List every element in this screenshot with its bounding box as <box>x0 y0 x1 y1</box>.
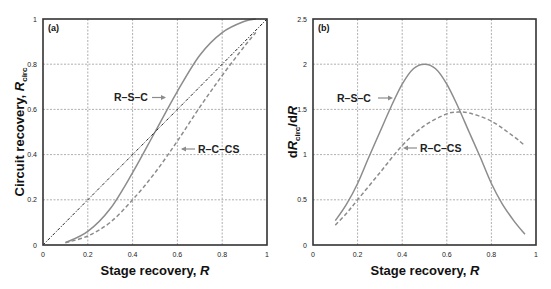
panel-b-grid <box>313 19 536 245</box>
panel-a-rsc-label: R–S–C <box>114 91 148 103</box>
panel-b-x-axis-label: Stage recovery, R <box>371 263 480 278</box>
series-diagonal-line <box>43 19 267 245</box>
y-tick-label: 0.2 <box>27 196 37 203</box>
panel-b-rsc-label: R–S–C <box>337 92 371 104</box>
x-tick-label: 0 <box>41 251 45 258</box>
panel-b-x-ticks: 00.20.40.60.81 <box>311 251 538 258</box>
y-tick-label: 1 <box>303 151 307 158</box>
panel-a-rccs-label: R–C–CS <box>198 143 239 155</box>
y-tick-label: 0.4 <box>27 151 37 158</box>
y-tick-label: 1 <box>33 16 37 23</box>
panel-b-y-axis-label: dRcirc/dR <box>285 105 302 158</box>
figure: 00.20.40.60.81 00.20.40.60.81 (a) R–S–C … <box>0 0 551 289</box>
panel-a-y-ticks: 00.20.40.60.81 <box>27 16 37 249</box>
y-tick-label: 0 <box>303 242 307 249</box>
x-tick-label: 0.2 <box>353 251 363 258</box>
panel-a-x-axis-label: Stage recovery, R <box>101 263 210 278</box>
y-tick-label: 0 <box>33 242 37 249</box>
panel-a-curves <box>43 19 267 245</box>
x-tick-label: 0.2 <box>83 251 93 258</box>
y-tick-label: 2 <box>303 61 307 68</box>
y-tick-label: 0.5 <box>297 196 307 203</box>
x-tick-label: 1 <box>265 251 269 258</box>
panel-a-rccs-arrow <box>181 147 195 152</box>
y-tick-label: 2.5 <box>297 16 307 23</box>
y-tick-label: 0.6 <box>27 106 37 113</box>
x-tick-label: 0.6 <box>442 251 452 258</box>
x-tick-label: 0.4 <box>397 251 407 258</box>
panel-b: 00.20.40.60.81 00.511.522.5 (b) R–S–C R–… <box>285 16 538 279</box>
panel-a: 00.20.40.60.81 00.20.40.60.81 (a) R–S–C … <box>12 16 269 279</box>
x-tick-label: 0.4 <box>128 251 138 258</box>
panel-a-y-axis-label: Circuit recovery, Rcirc <box>12 67 29 196</box>
panel-b-frame <box>313 19 536 245</box>
x-tick-label: 1 <box>534 251 538 258</box>
panel-b-rccs-arrow <box>403 146 417 151</box>
series-r-s-c-line <box>65 19 255 243</box>
panel-a-rsc-arrow <box>152 95 166 100</box>
panel-a-label: (a) <box>48 23 59 33</box>
panel-b-rccs-label: R–C–CS <box>420 142 461 154</box>
x-tick-label: 0.6 <box>173 251 183 258</box>
x-tick-label: 0.8 <box>217 251 227 258</box>
panel-b-rsc-arrow <box>378 96 393 101</box>
panel-b-label: (b) <box>318 23 330 33</box>
x-tick-label: 0 <box>311 251 315 258</box>
y-tick-label: 0.8 <box>27 61 37 68</box>
x-tick-label: 0.8 <box>487 251 497 258</box>
panel-a-x-ticks: 00.20.40.60.81 <box>41 251 269 258</box>
figure-svg: 00.20.40.60.81 00.20.40.60.81 (a) R–S–C … <box>0 0 551 289</box>
